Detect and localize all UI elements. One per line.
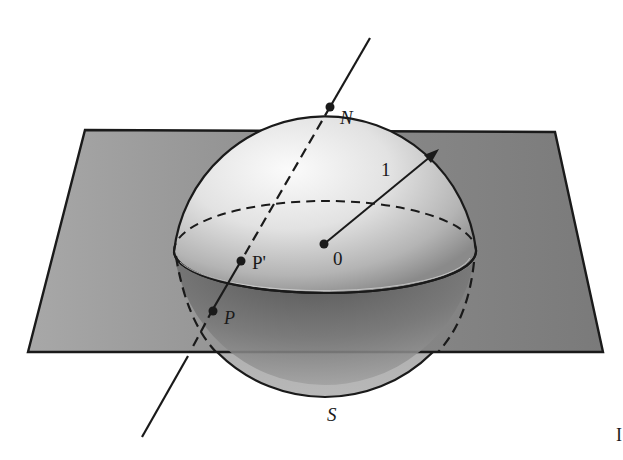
point-p <box>209 307 218 316</box>
stereographic-projection-diagram: N 0 P' P 1 S I <box>0 0 623 460</box>
origin-point <box>320 240 329 249</box>
label-north: N <box>339 107 354 128</box>
label-radius: 1 <box>381 159 391 180</box>
north-pole-point <box>326 103 335 112</box>
label-p-prime: P' <box>252 252 266 273</box>
point-p-prime <box>237 257 246 266</box>
label-origin: 0 <box>333 248 343 269</box>
label-south: S <box>327 404 337 425</box>
page-edge-mark: I <box>616 425 622 445</box>
label-p: P <box>223 308 235 328</box>
projection-line-top <box>330 38 370 107</box>
projection-line-bottom <box>142 356 188 437</box>
